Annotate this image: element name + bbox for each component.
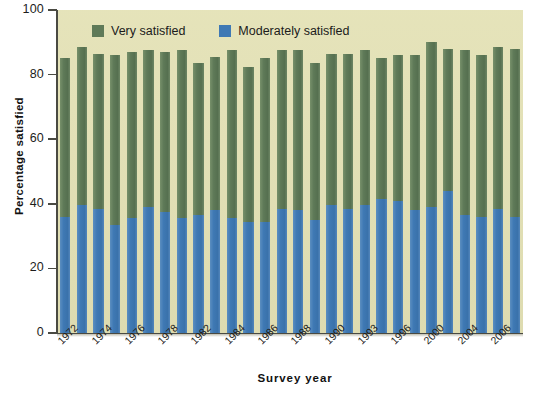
legend-swatch-green — [92, 25, 104, 37]
legend-item-very-satisfied: Very satisfied — [92, 24, 185, 38]
bar-segment-very-satisfied — [210, 57, 220, 210]
bar-group — [143, 50, 153, 333]
bar-segment-moderately-satisfied — [343, 209, 353, 333]
bar-segment-very-satisfied — [360, 50, 370, 205]
bar-segment-very-satisfied — [410, 55, 420, 210]
bar-segment-moderately-satisfied — [460, 215, 470, 333]
bar-segment-very-satisfied — [110, 55, 120, 225]
bar-segment-very-satisfied — [60, 58, 70, 216]
chart-figure: 100806040200 Very satisfied Moderately s… — [0, 0, 537, 393]
bar-segment-moderately-satisfied — [260, 222, 270, 333]
bar-segment-very-satisfied — [510, 49, 520, 217]
bar-group — [227, 50, 237, 333]
x-axis-title: Survey year — [180, 372, 410, 384]
bar-segment-moderately-satisfied — [293, 210, 303, 333]
bar-group — [127, 52, 137, 333]
bar-group — [443, 49, 453, 333]
bar-segment-moderately-satisfied — [243, 222, 253, 333]
bar-segment-moderately-satisfied — [127, 218, 137, 333]
bar-segment-moderately-satisfied — [210, 210, 220, 333]
y-axis-title: Percentage satisfied — [13, 41, 25, 271]
legend-label-very-satisfied: Very satisfied — [111, 24, 185, 38]
bar-segment-moderately-satisfied — [510, 217, 520, 333]
bar-segment-very-satisfied — [143, 50, 153, 207]
bar-segment-very-satisfied — [277, 50, 287, 208]
bar-segment-very-satisfied — [260, 58, 270, 221]
bar-group — [410, 55, 420, 333]
bar-group — [277, 50, 287, 333]
bar-group — [93, 54, 103, 333]
bar-segment-moderately-satisfied — [393, 201, 403, 333]
bar-segment-very-satisfied — [443, 49, 453, 191]
bar-group — [493, 47, 503, 333]
bar-segment-very-satisfied — [160, 52, 170, 212]
bar-group — [376, 58, 386, 333]
bar-group — [326, 54, 336, 333]
bar-segment-very-satisfied — [426, 42, 436, 207]
bar-group — [210, 57, 220, 333]
bar-segment-moderately-satisfied — [177, 218, 187, 333]
bar-segment-very-satisfied — [227, 50, 237, 218]
bar-segment-moderately-satisfied — [376, 199, 386, 333]
bar-group — [260, 58, 270, 333]
bar-segment-moderately-satisfied — [426, 207, 436, 333]
bar-group — [160, 52, 170, 333]
bar-group — [77, 47, 87, 333]
bar-segment-very-satisfied — [93, 54, 103, 209]
chart-legend: Very satisfied Moderately satisfied — [92, 24, 350, 38]
bar-segment-moderately-satisfied — [160, 212, 170, 333]
bar-segment-very-satisfied — [476, 55, 486, 217]
bar-segment-very-satisfied — [493, 47, 503, 209]
bar-group — [110, 55, 120, 333]
bar-segment-moderately-satisfied — [77, 205, 87, 333]
bar-segment-very-satisfied — [376, 58, 386, 199]
bar-segment-very-satisfied — [310, 63, 320, 220]
bar-segment-very-satisfied — [460, 50, 470, 215]
bar-segment-moderately-satisfied — [143, 207, 153, 333]
bar-segment-very-satisfied — [177, 50, 187, 218]
bar-segment-moderately-satisfied — [410, 210, 420, 333]
bar-segment-moderately-satisfied — [227, 218, 237, 333]
bar-group — [177, 50, 187, 333]
bar-group — [510, 49, 520, 333]
bar-segment-moderately-satisfied — [110, 225, 120, 333]
bar-segment-very-satisfied — [193, 63, 203, 215]
bar-segment-moderately-satisfied — [443, 191, 453, 333]
bar-group — [460, 50, 470, 333]
bar-segment-very-satisfied — [326, 54, 336, 206]
bar-segment-very-satisfied — [343, 54, 353, 209]
bar-segment-moderately-satisfied — [310, 220, 320, 333]
bar-group — [426, 42, 436, 333]
bar-segment-very-satisfied — [393, 55, 403, 200]
bar-segment-very-satisfied — [293, 50, 303, 210]
bar-segment-very-satisfied — [77, 47, 87, 205]
bar-group — [293, 50, 303, 333]
bar-group — [193, 63, 203, 333]
bar-segment-very-satisfied — [127, 52, 137, 218]
bar-group — [310, 63, 320, 333]
bar-segment-moderately-satisfied — [60, 217, 70, 333]
bar-group — [243, 67, 253, 333]
bar-segment-moderately-satisfied — [493, 209, 503, 333]
bar-group — [476, 55, 486, 333]
legend-item-moderately-satisfied: Moderately satisfied — [219, 24, 349, 38]
bar-segment-moderately-satisfied — [326, 205, 336, 333]
legend-swatch-blue — [219, 25, 231, 37]
legend-label-moderately-satisfied: Moderately satisfied — [238, 24, 349, 38]
bar-group — [360, 50, 370, 333]
bar-segment-moderately-satisfied — [360, 205, 370, 333]
bar-segment-moderately-satisfied — [93, 209, 103, 333]
bar-segment-moderately-satisfied — [476, 217, 486, 333]
bar-group — [60, 58, 70, 333]
bar-segment-very-satisfied — [243, 67, 253, 222]
bar-segment-moderately-satisfied — [193, 215, 203, 333]
bar-segment-moderately-satisfied — [277, 209, 287, 333]
bar-group — [343, 54, 353, 333]
bar-group — [393, 55, 403, 333]
